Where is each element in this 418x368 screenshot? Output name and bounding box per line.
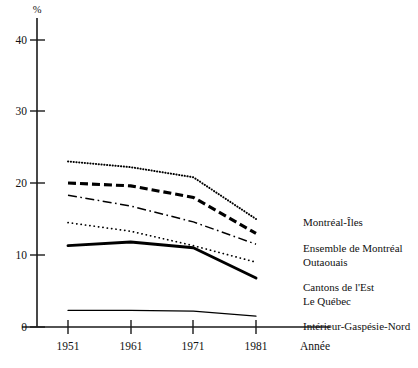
series-line-interieur-gaspesie-nord [68,310,256,316]
series-line-montreal-iles [68,161,256,219]
x-tick-label-1981: 1981 [245,340,268,352]
legend-label-interieur-gaspesie-nord: Intérieur-Gaspésie-Nord [303,320,411,332]
legend-label-le-quebec: Le Québec [303,295,351,307]
y-tick-label-10: 10 [16,249,28,261]
y-tick-label-20: 20 [16,177,28,189]
x-tick-label-1971: 1971 [182,340,205,352]
legend-label-cantons-de-l-est: Cantons de l'Est [303,281,374,293]
x-tick-label-1961: 1961 [120,340,143,352]
y-tick-label-0: 0 [21,321,27,333]
y-tick-label-40: 40 [16,34,28,46]
series-line-ensemble-de-montreal [68,183,256,233]
chart-container: % 40 30 20 10 0 1951 1961 1971 1981 [0,0,418,368]
line-chart: % 40 30 20 10 0 1951 1961 1971 1981 [0,0,418,368]
series-line-cantons-de-l-est [68,223,256,263]
y-tick-label-30: 30 [16,105,28,117]
legend-label-montreal-iles: Montréal-Îles [303,216,363,228]
series-line-outaouais [68,195,256,244]
legend-label-outaouais: Outaouais [303,256,348,268]
y-axis-unit-label: % [33,4,42,15]
x-axis-title: Année [300,340,330,352]
legend-label-ensemble-de-montreal: Ensemble de Montréal [303,242,403,254]
x-tick-label-1951: 1951 [57,340,80,352]
series-line-le-quebec [68,242,256,278]
